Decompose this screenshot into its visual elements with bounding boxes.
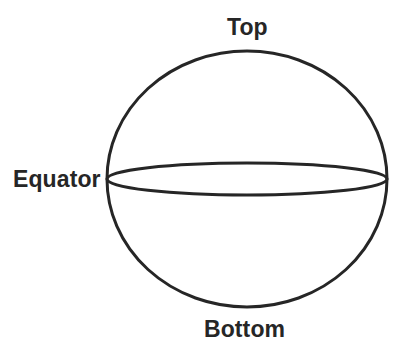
label-equator: Equator [13,168,101,191]
label-bottom: Bottom [204,318,285,341]
sphere-outline-ellipse [107,51,387,307]
label-top: Top [227,16,268,39]
equator-ellipse [107,163,387,195]
diagram-canvas: Top Equator Bottom [0,0,411,354]
